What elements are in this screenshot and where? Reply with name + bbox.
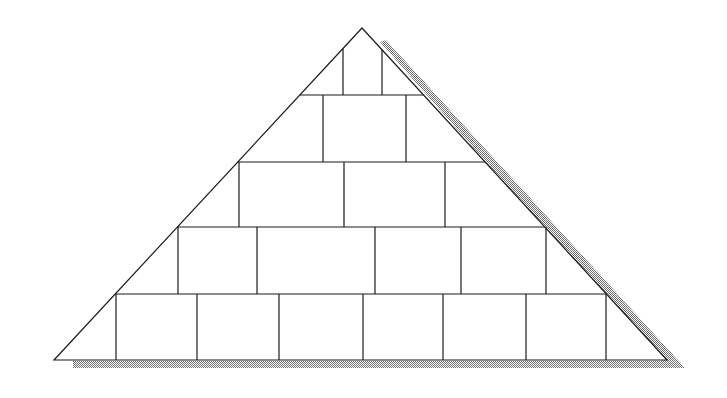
pyramid-body xyxy=(54,28,667,360)
pyramid-svg xyxy=(0,0,727,398)
pyramid-diagram xyxy=(0,0,727,398)
shadow-bottom-band xyxy=(73,361,685,368)
pyramid-outline xyxy=(54,28,667,360)
